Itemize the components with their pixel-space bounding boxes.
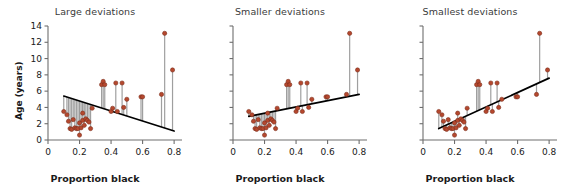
svg-text:4: 4 [36,103,42,113]
figure-three-panel-regression: Large deviations Age (years) Proportion … [0,0,570,188]
svg-text:0.4: 0.4 [479,147,494,157]
svg-text:2: 2 [36,119,42,129]
svg-text:14: 14 [31,21,43,31]
svg-text:10: 10 [31,54,43,64]
panel-large-deviations: Large deviations Age (years) Proportion … [0,0,190,188]
svg-text:6: 6 [36,86,42,96]
svg-text:0.6: 0.6 [135,147,150,157]
svg-text:0.2: 0.2 [447,147,461,157]
plot-canvas-0: 0246810121400.20.40.60.8 [0,0,190,188]
svg-text:0.4: 0.4 [289,147,304,157]
svg-text:12: 12 [31,37,42,47]
svg-text:0.4: 0.4 [104,147,119,157]
svg-text:0.6: 0.6 [320,147,335,157]
svg-text:8: 8 [36,70,42,80]
svg-text:0.2: 0.2 [72,147,86,157]
svg-text:0.8: 0.8 [167,147,182,157]
svg-text:0.8: 0.8 [542,147,557,157]
svg-text:0.6: 0.6 [510,147,525,157]
svg-text:0: 0 [36,135,42,145]
panel-smallest-deviations: Smallest deviations Proportion black 00.… [375,0,565,188]
svg-text:0.8: 0.8 [352,147,367,157]
panel-smaller-deviations: Smaller deviations Proportion black 00.2… [185,0,375,188]
svg-text:0: 0 [45,147,51,157]
plot-canvas-2: 00.20.40.60.8 [375,0,565,188]
plot-canvas-1: 00.20.40.60.8 [185,0,375,188]
svg-text:0.2: 0.2 [257,147,271,157]
svg-text:0: 0 [230,147,236,157]
svg-text:0: 0 [420,147,426,157]
